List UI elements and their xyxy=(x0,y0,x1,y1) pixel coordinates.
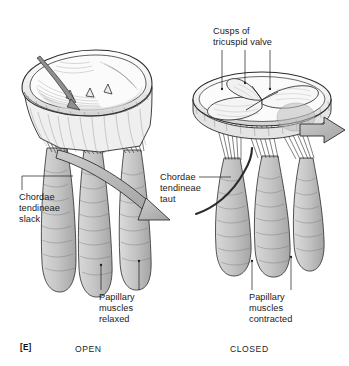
figure-panel-tag: [E] xyxy=(20,343,32,352)
papillary-muscles-contracted xyxy=(215,156,324,277)
label-chordae-tendineae-slack: Chordae tendineae slack xyxy=(19,192,60,226)
caption-closed: CLOSED xyxy=(230,344,269,354)
label-papillary-muscles-relaxed: Papillary muscles relaxed xyxy=(99,292,135,326)
label-papillary-muscles-contracted: Papillary muscles contracted xyxy=(249,292,292,326)
caption-open: OPEN xyxy=(75,344,102,354)
open-tricuspid-valve xyxy=(22,50,170,297)
closed-tricuspid-valve xyxy=(193,72,345,277)
label-chordae-tendineae-taut: Chordae tendineae taut xyxy=(160,172,201,206)
label-cusps-of-tricuspid-valve: Cusps of tricuspid valve xyxy=(213,26,272,48)
tricuspid-valve-figure: Cusps of tricuspid valve Chordae tendine… xyxy=(0,0,349,366)
